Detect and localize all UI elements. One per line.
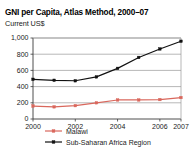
xtick-label-2006: 2006	[152, 123, 168, 130]
legend-label-2[interactable]: Sub-Saharan Africa Region	[66, 139, 151, 147]
data-point-marker	[32, 105, 35, 108]
data-point-marker	[116, 67, 119, 70]
ytick-label-800: 800	[17, 51, 29, 58]
series-line-sub-saharan-africa-region	[33, 41, 181, 81]
ytick-label-400: 400	[17, 83, 29, 90]
data-point-marker	[116, 99, 119, 102]
chart-figure: GNI per Capita, Atlas Method, 2000–07 Cu…	[0, 0, 194, 155]
xtick-label-2000: 2000	[25, 123, 41, 130]
data-point-marker	[159, 48, 162, 51]
legend-marker-swatch	[52, 141, 55, 144]
ytick-label-600: 600	[17, 67, 29, 74]
chart-title: GNI per Capita, Atlas Method, 2000–07	[5, 8, 148, 18]
legend-label-1[interactable]: Malawi	[66, 128, 88, 135]
data-point-marker	[53, 79, 56, 82]
data-point-marker	[74, 104, 77, 107]
legend-marker-swatch	[52, 130, 55, 133]
xtick-label-2004: 2004	[110, 123, 126, 130]
ytick-label-200: 200	[17, 99, 29, 106]
ytick-label-1,000: 1,000	[11, 34, 29, 41]
xtick-label-2007: 2007	[173, 123, 189, 130]
data-point-marker	[180, 96, 183, 99]
data-point-marker	[95, 76, 98, 79]
data-point-marker	[137, 56, 140, 59]
data-point-marker	[180, 40, 183, 43]
data-point-marker	[95, 102, 98, 105]
ytick-label-0: 0	[25, 115, 29, 122]
data-point-marker	[137, 99, 140, 102]
data-point-marker	[74, 79, 77, 82]
data-point-marker	[53, 106, 56, 109]
data-point-marker	[32, 78, 35, 81]
chart-subtitle: Current US$	[5, 19, 44, 28]
data-point-marker	[159, 98, 162, 101]
chart-plot-area: 02004006008001,00020002002200420062007Ma…	[0, 28, 194, 155]
